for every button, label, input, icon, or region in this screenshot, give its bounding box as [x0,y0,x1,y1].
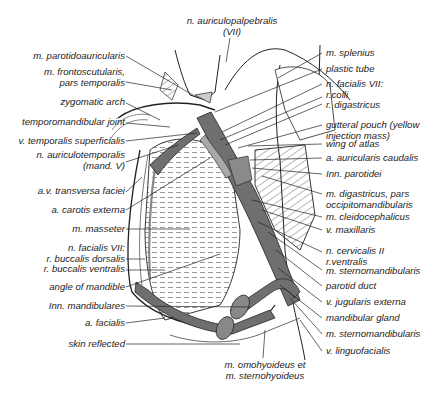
label-n-facialis-buccal: n. facialis VII: r. buccalis dorsalis r.… [44,243,125,275]
label-lnn-mandibulares: Inn. mandibulares [49,301,125,312]
label-m-omohyoideus: m. omohyoideus et m. sternohyoideus [210,360,320,381]
label-skin-reflected: skin reflected [68,339,125,350]
label-v-temporalis-superficialis: v. temporalis superficialis [19,136,125,147]
label-plastic-tube: plastic tube [326,64,375,75]
label-temporomandibular-joint: temporomandibular joint [22,117,125,128]
label-m-splenius: m. splenius [326,48,375,59]
label-n-cervicalis-ii: n. cervicalis II r.ventralis [326,246,384,267]
label-m-parotidoauricularis: m. parotidoauricularis [33,51,125,62]
label-m-sternomandibularis-2: m. sternomandibularis [326,329,420,340]
label-n-auriculotemporalis: n. auriculotemporalis (mand. V) [36,150,125,171]
label-m-masseter: m. masseter [72,224,125,235]
label-a-facialis: a. facialis [85,318,125,329]
label-v-linguofacialis: v. linguofacialis [326,346,390,357]
label-n-auriculopalpebralis: n. auriculopalpebralis (VII) [172,16,292,37]
label-a-carotis-externa: a. carotis externa [51,205,125,216]
label-a-auricularis-caudalis: a. auricularis caudalis [326,153,418,164]
label-m-frontoscutularis: m. frontoscutularis, pars temporalis [44,67,125,88]
label-m-sternomandibularis-1: m. sternomandibularis [326,266,420,277]
label-angle-of-mandible: angle of mandible [49,282,125,293]
label-av-transversa-faciei: a.v. transversa faciei [38,186,125,197]
label-v-maxillaris: v. maxillaris [326,225,375,236]
label-zygomatic-arch: zygomatic arch [60,97,125,108]
label-n-facialis-colli: n. facialis VII: r.colli r. digastricus [326,79,383,111]
label-v-jugularis-externa: v. jugularis externa [326,297,406,308]
label-wing-of-atlas: wing of atlas [326,139,379,150]
label-lnn-parotidei: Inn. parotidei [326,169,381,180]
label-m-digastricus: m. digastricus, pars occipitomandibulari… [326,189,413,210]
label-mandibular-gland: mandibular gland [326,313,400,324]
label-parotid-duct: parotid duct [326,281,376,292]
label-m-cleidocephalicus: m. cleidocephalicus [326,212,410,223]
